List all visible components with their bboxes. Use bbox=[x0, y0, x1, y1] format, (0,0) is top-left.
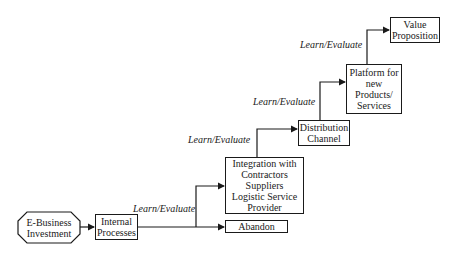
integration-text: Integration with Contractors Suppliers L… bbox=[232, 158, 297, 213]
value-proposition-box: Value Proposition bbox=[390, 17, 440, 43]
edge-label-1: Learn/Evaluate bbox=[133, 203, 195, 214]
start-node-text: E-Business Investment bbox=[27, 217, 72, 239]
start-node: E-Business Investment bbox=[18, 212, 80, 243]
edge-label-2: Learn/Evaluate bbox=[188, 134, 250, 145]
distribution-channel-text: Distribution Channel bbox=[300, 122, 348, 144]
internal-processes-box: Internal Processes bbox=[95, 214, 138, 240]
distribution-channel-box: Distribution Channel bbox=[298, 120, 350, 146]
platform-text: Platform for new Products/ Services bbox=[349, 67, 398, 111]
edge-label-4: Learn/Evaluate bbox=[300, 39, 362, 50]
value-proposition-text: Value Proposition bbox=[392, 19, 438, 41]
diagram-canvas: E-Business Investment Internal Processes… bbox=[0, 0, 458, 256]
internal-processes-text: Internal Processes bbox=[97, 216, 136, 238]
integration-box: Integration with Contractors Suppliers L… bbox=[225, 157, 304, 214]
abandon-box: Abandon bbox=[225, 220, 288, 233]
abandon-text: Abandon bbox=[238, 221, 275, 232]
edge-label-3: Learn/Evaluate bbox=[253, 96, 315, 107]
platform-box: Platform for new Products/ Services bbox=[346, 64, 402, 114]
